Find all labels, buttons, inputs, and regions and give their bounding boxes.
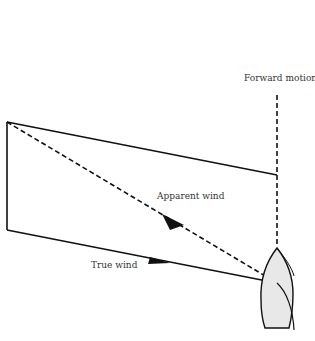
true-wind-line (7, 230, 277, 283)
true-wind-label: True wind (91, 260, 138, 270)
apparent-wind-label: Apparent wind (156, 191, 225, 201)
true-wind-arrowhead-icon (148, 257, 170, 264)
boat (261, 248, 294, 330)
wind-diagram: Forward motion Apparent wind True wind (0, 0, 315, 341)
forward-motion-label: Forward motion (244, 73, 315, 83)
top-edge (7, 122, 277, 175)
apparent-wind-arrowhead-icon (162, 214, 184, 230)
apparent-wind-line (7, 122, 277, 283)
boat-hull-icon (261, 248, 293, 328)
parallelogram-frame (7, 122, 277, 230)
